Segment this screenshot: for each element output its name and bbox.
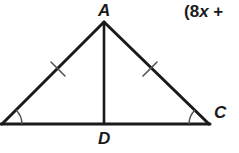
expression-operator: + (209, 2, 224, 21)
vertex-label-a: A (98, 2, 110, 19)
angle-arc-left-vertex-icon (16, 110, 22, 124)
side-AB-line (2, 22, 104, 124)
side-AC-line (104, 22, 209, 124)
expression-variable: x (199, 2, 208, 21)
expression-open-paren: (8 (184, 2, 199, 21)
geometry-figure: A C D (8x + (0, 0, 239, 153)
vertex-label-d: D (98, 130, 110, 147)
angle-expression-annotation: (8x + (184, 3, 223, 22)
triangle-diagram-canvas (0, 0, 239, 153)
vertex-label-c: C (214, 104, 226, 121)
tick-mark-right-leg-icon (143, 62, 157, 76)
angle-arc-right-vertex-icon (189, 110, 195, 124)
